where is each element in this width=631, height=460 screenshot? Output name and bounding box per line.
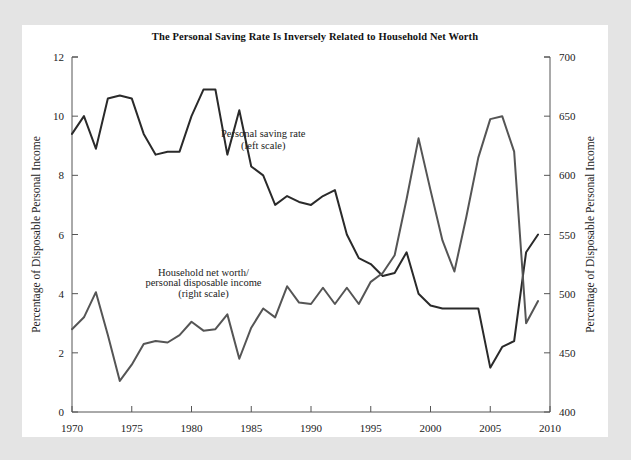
y-tick-label: 8 <box>59 169 65 181</box>
axes-spines <box>72 57 550 412</box>
x-tick-label: 2010 <box>539 422 562 434</box>
y-tick-label: 10 <box>53 110 65 122</box>
x-tick-label: 1995 <box>360 422 383 434</box>
chart-svg: 0246810124004505005506006507001970197519… <box>22 25 608 437</box>
y-tick-label: 12 <box>53 51 64 63</box>
y2-tick-label: 550 <box>559 229 576 241</box>
annotation-label: personal disposable income <box>145 277 261 288</box>
x-tick-label: 2000 <box>420 422 443 434</box>
y2-tick-label: 450 <box>559 347 576 359</box>
chart-panel: The Personal Saving Rate Is Inversely Re… <box>22 25 608 437</box>
y-tick-label: 4 <box>59 288 65 300</box>
y2-tick-label: 400 <box>559 406 576 418</box>
y2-tick-label: 700 <box>559 51 576 63</box>
y2-tick-label: 600 <box>559 169 576 181</box>
x-tick-label: 1975 <box>121 422 144 434</box>
y2-axis-title: Percentage of Disposable Personal Income <box>584 136 597 333</box>
annotation-label: (left scale) <box>241 140 286 152</box>
y-tick-label: 2 <box>59 347 65 359</box>
annotation-label: Household net worth/ <box>158 267 249 278</box>
y2-tick-label: 650 <box>559 110 576 122</box>
x-tick-label: 1980 <box>181 422 204 434</box>
annotation-label: Personal saving rate <box>221 128 306 139</box>
x-tick-label: 1985 <box>240 422 263 434</box>
y-tick-label: 0 <box>59 406 65 418</box>
figure-container: The Personal Saving Rate Is Inversely Re… <box>0 0 631 460</box>
x-tick-label: 2005 <box>479 422 502 434</box>
x-tick-label: 1990 <box>300 422 323 434</box>
series-line-household-net-worth <box>72 116 538 381</box>
y2-tick-label: 500 <box>559 288 576 300</box>
x-tick-label: 1970 <box>61 422 84 434</box>
annotation-label: (right scale) <box>178 288 229 300</box>
y-axis-title: Percentage of Disposable Personal Income <box>30 136 43 333</box>
y-tick-label: 6 <box>59 229 65 241</box>
